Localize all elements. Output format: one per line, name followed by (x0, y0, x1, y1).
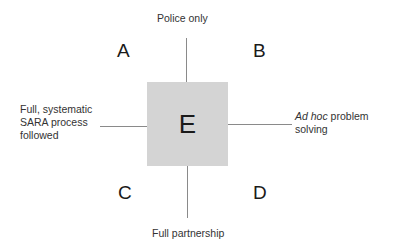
vertical-axis-bottom (187, 166, 188, 218)
axis-label-right-italic: Ad hoc (295, 110, 328, 122)
quadrant-c: C (118, 182, 132, 204)
axis-label-right: Ad hoc problem solving (295, 110, 369, 136)
center-label: E (179, 109, 196, 140)
axis-label-bottom: Full partnership (152, 227, 224, 240)
axis-label-left: Full, systematic SARA process followed (20, 103, 92, 142)
axis-label-right-line2: solving (295, 123, 369, 136)
quadrant-b: B (253, 40, 266, 62)
axis-label-left-line1: Full, systematic (20, 103, 92, 116)
axis-label-right-rest: problem (328, 110, 369, 122)
axis-label-top: Police only (157, 12, 208, 25)
horizontal-axis-left (100, 126, 147, 127)
axis-label-right-line1: Ad hoc problem (295, 110, 369, 123)
vertical-axis-top (186, 38, 187, 82)
axis-label-left-line2: SARA process (20, 116, 92, 129)
quadrant-a: A (117, 40, 130, 62)
axis-label-left-line3: followed (20, 129, 92, 142)
quadrant-d: D (253, 182, 267, 204)
center-box-e: E (147, 82, 228, 166)
horizontal-axis-right (228, 124, 292, 125)
